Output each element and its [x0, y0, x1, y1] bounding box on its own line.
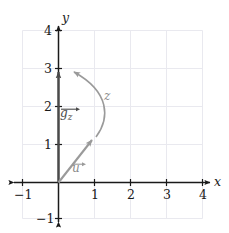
- y-axis-label: y: [62, 12, 69, 25]
- plot-canvas: [0, 0, 229, 233]
- vector-u-base: u: [72, 161, 80, 175]
- x-tick-label-1: 1: [91, 189, 99, 202]
- x-axis-label: x: [214, 176, 221, 189]
- x-tick-label--1: −1: [14, 189, 32, 202]
- vector-gz-base: g: [60, 106, 68, 120]
- grid-horizontal-lines: [23, 31, 203, 219]
- vector-diagram-figure: −1 1 2 3 4 4 3 2 1 −1 x y gz u z: [0, 0, 229, 233]
- vector-gz-label-stack: gz: [60, 107, 72, 122]
- y-tick-label--1: −1: [36, 213, 54, 226]
- arc-z: [74, 72, 105, 137]
- y-tick-label-4: 4: [44, 25, 52, 38]
- y-tick-label-3: 3: [44, 63, 52, 76]
- vector-u-label-stack: u: [72, 162, 80, 174]
- vector-gz-label: gz: [60, 107, 72, 122]
- vector-gz-subscript: z: [68, 112, 73, 122]
- grid-vertical-lines: [23, 31, 203, 219]
- y-tick-label-1: 1: [44, 139, 52, 152]
- x-tick-label-3: 3: [163, 189, 171, 202]
- x-tick-label-2: 2: [127, 189, 135, 202]
- x-tick-label-4: 4: [199, 189, 207, 202]
- arc-z-label: z: [104, 90, 110, 102]
- y-tick-label-2: 2: [44, 101, 52, 114]
- vector-u-label: u: [72, 162, 80, 174]
